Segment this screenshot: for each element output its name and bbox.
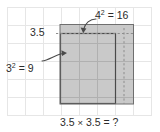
caption-equals-unknown: = ? xyxy=(104,116,119,128)
label-three-squared: 32 = 9 xyxy=(6,63,34,74)
three-squared-result: = 9 xyxy=(16,62,34,74)
area-model-figure: 42 = 16 3.5 32 = 9 3.5 × 3.5 = ? xyxy=(0,0,160,132)
caption-equation: 3.5 × 3.5 = ? xyxy=(60,117,118,128)
caption-operand-a: 3.5 xyxy=(60,116,75,128)
shaded-area-square xyxy=(60,25,134,105)
label-side-length: 3.5 xyxy=(30,27,45,38)
multiply-symbol: × xyxy=(78,117,84,128)
four-squared-result: = 16 xyxy=(105,9,129,21)
label-four-squared: 42 = 16 xyxy=(95,10,128,21)
caption-operand-b: 3.5 xyxy=(86,116,101,128)
